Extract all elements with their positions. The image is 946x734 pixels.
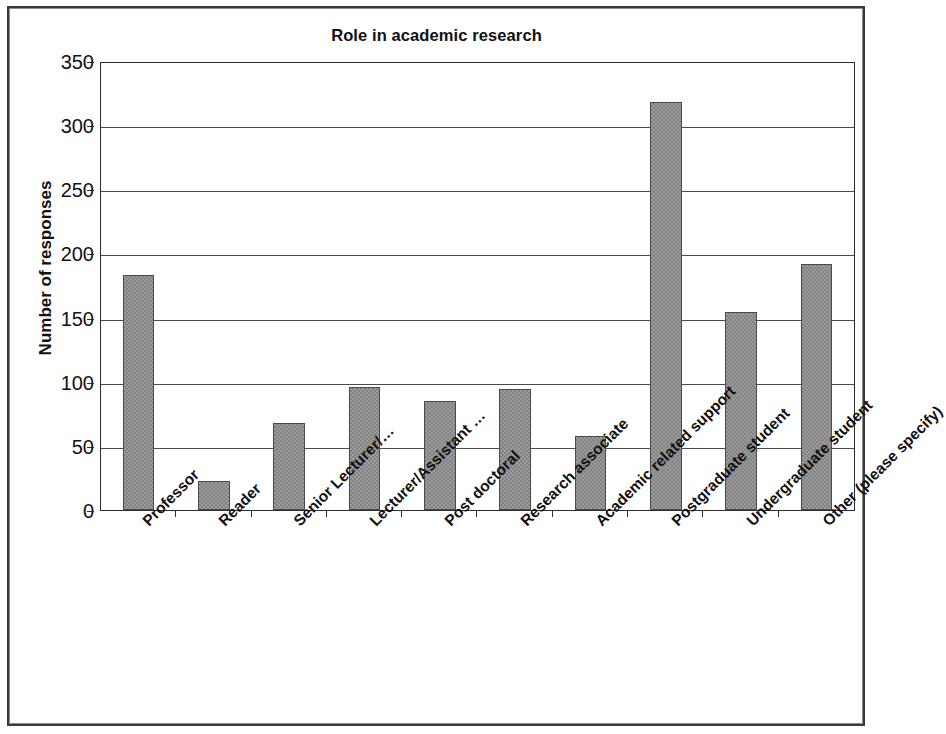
y-tick-mark-50 xyxy=(87,447,94,448)
y-tick-label-300: 300 xyxy=(36,115,94,138)
y-tick-label-350: 350 xyxy=(36,51,94,74)
bar xyxy=(273,423,305,510)
y-tick-mark-200 xyxy=(87,254,94,255)
y-tick-label-100: 100 xyxy=(36,371,94,394)
y-tick-label-250: 250 xyxy=(36,179,94,202)
y-tick-label-150: 150 xyxy=(36,307,94,330)
y-tick-mark-150 xyxy=(87,319,94,320)
y-axis-ticks: 350300250200150100500 xyxy=(28,62,94,511)
y-tick-mark-0 xyxy=(87,511,94,512)
x-axis-labels: ProfessorReaderSenior Lecturer/…Lecturer… xyxy=(100,513,855,723)
bar xyxy=(123,275,155,510)
y-tick-label-0: 0 xyxy=(36,500,94,523)
chart-title: Role in academic research xyxy=(0,26,873,45)
y-tick-mark-350 xyxy=(87,62,94,63)
y-tick-mark-300 xyxy=(87,126,94,127)
bar-slot xyxy=(252,63,327,510)
bar xyxy=(499,389,531,510)
y-tick-mark-250 xyxy=(87,190,94,191)
bar-slot xyxy=(477,63,552,510)
y-tick-label-50: 50 xyxy=(36,435,94,458)
y-tick-label-200: 200 xyxy=(36,243,94,266)
y-tick-mark-100 xyxy=(87,383,94,384)
bar-slot xyxy=(176,63,251,510)
bar-slot xyxy=(101,63,176,510)
